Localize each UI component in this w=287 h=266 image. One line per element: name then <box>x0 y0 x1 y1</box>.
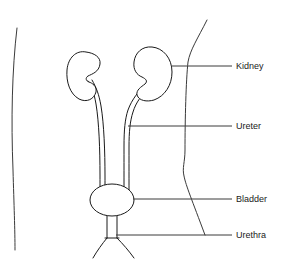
kidney-label: Kidney <box>236 61 264 71</box>
bladder-icon <box>90 184 134 216</box>
left-kidney-icon <box>67 52 100 101</box>
body-outline-right-icon <box>183 20 207 235</box>
label-urethra: Urethra <box>116 230 266 240</box>
urethra-label: Urethra <box>236 230 266 240</box>
urethra-leg-left-icon <box>93 238 107 258</box>
label-ureter: Ureter <box>128 121 261 131</box>
right-ureter-icon <box>124 86 144 203</box>
label-kidney: Kidney <box>172 61 264 71</box>
urinary-system-diagram: Kidney Ureter Bladder Urethra <box>0 0 287 266</box>
body-outline-left-icon <box>12 28 17 250</box>
left-ureter-inner-icon <box>92 80 105 203</box>
right-kidney-icon <box>134 47 172 101</box>
diagram-canvas: Kidney Ureter Bladder Urethra <box>0 0 287 266</box>
bladder-label: Bladder <box>236 194 267 204</box>
right-ureter-inner-icon <box>129 90 147 203</box>
ureter-label: Ureter <box>236 121 261 131</box>
label-bladder: Bladder <box>133 194 267 204</box>
urethra-leg-right-icon <box>117 238 134 258</box>
